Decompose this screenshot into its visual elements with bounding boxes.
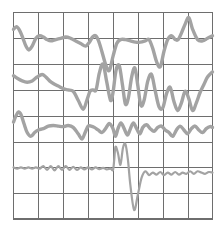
waveform-chart xyxy=(0,0,223,236)
grid-lines xyxy=(14,13,213,220)
waveform-figure xyxy=(0,0,223,236)
